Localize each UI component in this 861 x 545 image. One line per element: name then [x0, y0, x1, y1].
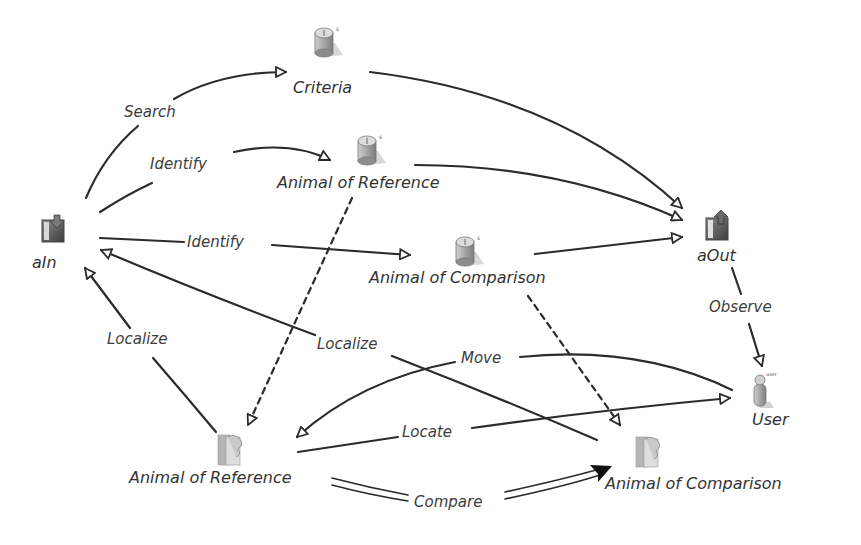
edge-identify-cmp-left	[100, 238, 184, 242]
node-user-label: User	[752, 412, 788, 428]
user-icon: user	[754, 371, 778, 408]
edge-label-identify-cmp: Identify	[185, 235, 246, 250]
node-animal-ref-top-label: Animal of Reference	[277, 175, 440, 191]
edge-ref-aout	[415, 165, 682, 220]
edge-localize-left-upper	[85, 268, 130, 328]
edge-label-move: Move	[459, 351, 503, 366]
edge-localize-mid-left	[101, 250, 315, 335]
edge-label-identify-ref: Identify	[148, 157, 209, 172]
edge-search-lower	[86, 126, 138, 198]
edge-label-observe: Observe	[707, 300, 774, 315]
node-aout-label: aOut	[697, 248, 736, 264]
edge-identify-cmp-right	[272, 245, 410, 255]
edge-label-search: Search	[122, 105, 178, 120]
node-animal-ref-bottom-label: Animal of Reference	[129, 470, 292, 486]
edge-localize-left-lower	[153, 358, 216, 432]
edge-dashed-cmp	[528, 296, 620, 425]
node-criteria-label: Criteria	[293, 80, 352, 96]
animal-document-icon	[636, 437, 660, 467]
edge-dashed-ref	[248, 198, 352, 425]
resource-cylinder-icon: s	[456, 234, 484, 266]
edge-identify-ref-lower	[100, 183, 152, 212]
edge-search-upper	[174, 72, 286, 99]
edge-label-localize-mid: Localize	[315, 337, 379, 352]
svg-text:s: s	[379, 133, 382, 140]
node-animal-cmp-top-label: Animal of Comparison	[369, 270, 546, 286]
edge-move-right	[520, 354, 732, 390]
resource-cylinder-icon: s	[315, 25, 343, 57]
edge-label-locate: Locate	[400, 425, 454, 440]
resource-cylinder-icon: s	[358, 133, 386, 165]
diagram-canvas: s s s user	[0, 0, 861, 545]
edge-observe-upper	[732, 268, 741, 294]
edge-compare-left-a	[332, 478, 408, 495]
edge-label-compare: Compare	[412, 495, 484, 510]
svg-text:s: s	[336, 25, 339, 32]
svg-text:s: s	[477, 234, 480, 241]
edge-compare-right-b	[505, 475, 600, 499]
input-port-icon	[42, 215, 64, 242]
edge-cmp-aout	[535, 237, 682, 254]
node-animal-cmp-bottom-label: Animal of Comparison	[605, 476, 782, 492]
svg-text:user: user	[766, 371, 778, 377]
animal-document-icon	[218, 435, 242, 465]
edge-locate-left	[298, 437, 398, 452]
output-port-icon	[706, 210, 728, 240]
node-ain-label: aIn	[32, 255, 57, 271]
edge-observe-lower	[749, 324, 762, 366]
edge-label-localize-left: Localize	[105, 332, 169, 347]
edge-identify-ref-upper	[234, 148, 330, 161]
